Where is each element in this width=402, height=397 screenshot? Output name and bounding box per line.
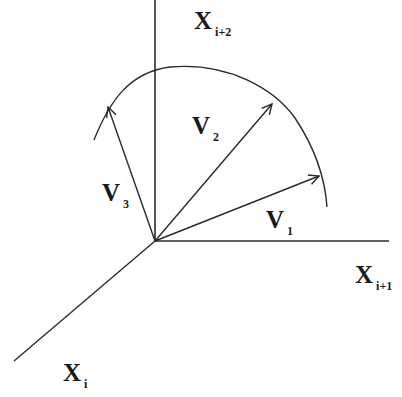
label-x-i-plus-2: Xi+2 — [194, 8, 231, 33]
axis-x-i — [14, 241, 155, 361]
label-v2: V2 — [192, 113, 219, 138]
vector-v1-arrow — [155, 176, 319, 241]
label-x-i: Xi — [63, 360, 87, 385]
label-x-i-plus-1: Xi+1 — [355, 262, 392, 287]
label-v3: V3 — [102, 180, 129, 205]
diagram-canvas — [0, 0, 402, 397]
vector-v3-arrow — [108, 107, 155, 241]
label-v1: V1 — [266, 207, 293, 232]
